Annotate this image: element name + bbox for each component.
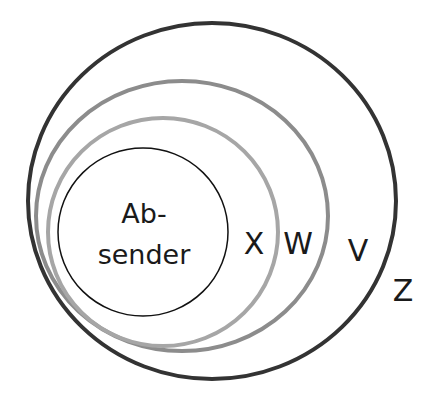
- absender-label-line2: sender: [98, 239, 192, 270]
- absender-label-line1: Ab-: [121, 198, 166, 229]
- label-w: W: [283, 226, 313, 261]
- circle-absender: [58, 148, 228, 316]
- label-x: X: [244, 226, 265, 261]
- nested-set-diagram: Ab- sender X W V Z: [0, 0, 443, 402]
- label-v: V: [348, 233, 369, 268]
- circle-z: [28, 23, 396, 379]
- label-z: Z: [393, 273, 414, 308]
